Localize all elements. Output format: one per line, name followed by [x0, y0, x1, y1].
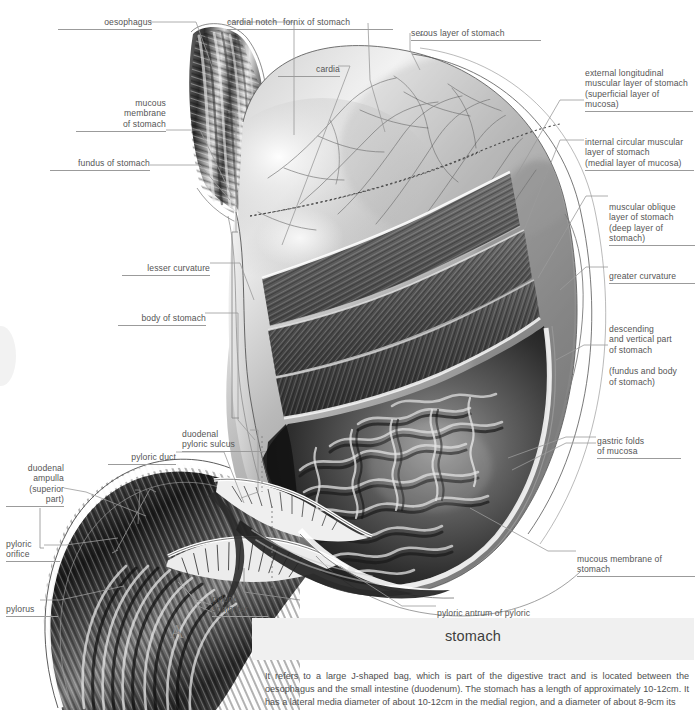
- label-oesophagus: oesophagus: [58, 6, 152, 41]
- label-duodenal-pyloric-sulcus: duodenal pyloric sulcus: [182, 418, 266, 464]
- label-mucous-membrane-of-stomach-left: mucous membrane of stomach: [76, 87, 166, 143]
- label-serous-layer-of-stomach: serous layer of stomach: [411, 17, 541, 52]
- label-pyloric-duct: pyloric duct: [108, 441, 176, 476]
- figure-marker-a: A: [170, 621, 184, 643]
- caption-block: stomach It refers to a large J-shaped ba…: [252, 618, 694, 710]
- caption-title: stomach: [252, 628, 694, 644]
- label-body-of-stomach: body of stomach: [118, 302, 206, 337]
- label-fundus-of-stomach: fundus of stomach: [50, 147, 150, 182]
- label-gastric-folds-of-mucosa: gastric folds of mucosa: [597, 425, 681, 471]
- label-muscular-oblique-layer: muscular oblique layer of stomach (deep …: [609, 191, 695, 258]
- label-mucous-membrane-of-stomach-right: mucous membrane of stomach: [577, 543, 695, 589]
- label-internal-circular-layer: internal circular muscular layer of stom…: [585, 126, 694, 182]
- label-lesser-curvature: lesser curvature: [122, 252, 210, 287]
- label-pylorus: pylorus: [6, 593, 58, 628]
- label-external-longitudinal-layer: external longitudinal muscular layer of …: [585, 57, 693, 124]
- label-duodenal-ampulla: duodenal ampulla (superior part): [6, 452, 64, 519]
- label-cardia: cardia: [278, 53, 340, 88]
- label-descending-vertical-part: descending and vertical part of stomach …: [609, 313, 697, 388]
- label-fornix-of-stomach: fornix of stomach: [283, 6, 393, 41]
- caption-description: It refers to a large J-shaped bag, which…: [265, 670, 689, 710]
- label-greater-curvature: greater curvature: [609, 260, 695, 295]
- label-pyloric-orifice: pyloric orifice: [6, 528, 60, 574]
